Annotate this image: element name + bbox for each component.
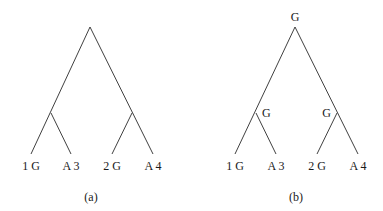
- internal-left-state-label: G: [262, 106, 271, 120]
- leaf-label-3: A 3: [62, 159, 79, 173]
- panel-caption-b: (b): [289, 190, 303, 204]
- tree-panel-b: G G G 1 G A 3 2 G A 4 (b): [226, 10, 366, 204]
- edge-root-to-leaf-1: [235, 27, 295, 154]
- leaf-label-1: 1 G: [226, 159, 244, 173]
- leaf-label-2: 2 G: [103, 159, 121, 173]
- leaf-label-1: 1 G: [22, 159, 40, 173]
- leaf-label-4: A 4: [349, 159, 366, 173]
- leaf-label-3: A 3: [267, 159, 284, 173]
- leaf-label-4: A 4: [144, 159, 161, 173]
- leaf-label-2: 2 G: [308, 159, 326, 173]
- root-state-label: G: [291, 10, 300, 24]
- internal-right-state-label: G: [322, 106, 331, 120]
- panel-caption-a: (a): [84, 190, 97, 204]
- phylogeny-figure: 1 G A 3 2 G A 4 (a) G G G 1 G A 3 2 G A …: [0, 0, 383, 211]
- edge-internal-left-to-leaf-3: [51, 113, 71, 154]
- edge-internal-right-to-leaf-2: [112, 113, 132, 154]
- tree-panel-a: 1 G A 3 2 G A 4 (a): [22, 27, 161, 204]
- edge-root-to-leaf-1: [31, 27, 90, 154]
